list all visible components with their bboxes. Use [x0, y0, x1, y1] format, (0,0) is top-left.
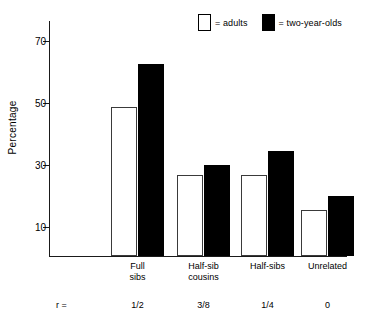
x-axis-line [49, 256, 347, 257]
bar-two-year-olds-2 [268, 151, 294, 256]
bar-adults-1 [177, 175, 203, 256]
bar-two-year-olds-3 [328, 196, 354, 256]
y-axis-tick-label: 30 [6, 161, 46, 171]
x-axis-category-labels: Full sibsHalf-sib cousinsHalf-sibsUnrela… [49, 261, 366, 293]
relatedness-value-3: 0 [298, 300, 358, 310]
relatedness-value-0: 1/2 [108, 300, 168, 310]
bar-adults-0 [111, 107, 137, 256]
y-axis-line [49, 21, 50, 257]
relatedness-row: r = 1/23/81/40 [0, 300, 366, 316]
relatedness-value-2: 1/4 [238, 300, 298, 310]
relatedness-row-label: r = [56, 300, 86, 310]
relatedness-value-1: 3/8 [174, 300, 234, 310]
bar-adults-3 [301, 210, 327, 257]
bar-two-year-olds-0 [138, 64, 164, 256]
plot-area: 70503010 [49, 20, 349, 258]
bar-chart-figure: = adults = two-year-olds Percentage 7050… [0, 0, 366, 328]
category-label-3: Unrelated [288, 261, 366, 272]
bar-adults-2 [241, 175, 267, 256]
y-axis-tick-label: 10 [6, 223, 46, 233]
bar-two-year-olds-1 [204, 165, 230, 256]
y-axis-tick-label: 70 [6, 37, 46, 47]
y-axis-label: Percentage [7, 83, 18, 173]
y-axis-tick-label: 50 [6, 99, 46, 109]
